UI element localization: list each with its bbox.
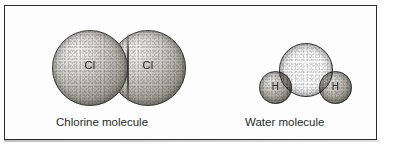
atom-symbol-label: O xyxy=(279,60,333,72)
chlorine-molecule-caption: Chlorine molecule xyxy=(56,116,148,128)
scan-edge-shadow xyxy=(4,140,379,142)
molecule-figure: Cl Cl Chlorine molecule H H O Water mole… xyxy=(0,0,397,150)
chlorine-atom-left: Cl xyxy=(52,30,128,106)
chlorine-bond-seam xyxy=(127,34,129,102)
atom-symbol-label: Cl xyxy=(52,59,128,71)
water-molecule-caption: Water molecule xyxy=(245,116,324,128)
oxygen-atom: O xyxy=(279,43,333,97)
